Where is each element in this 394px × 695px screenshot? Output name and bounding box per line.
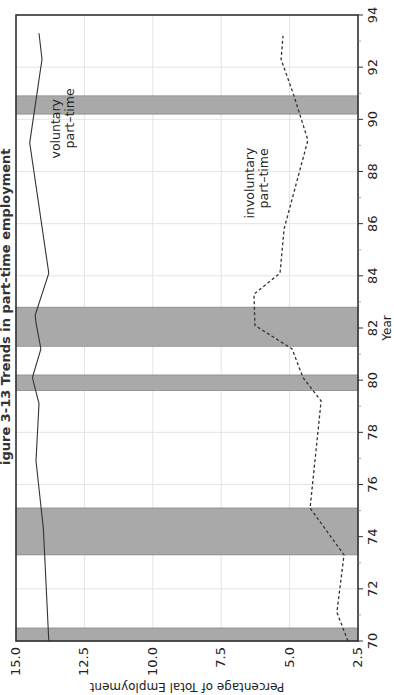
y-tick-label: 5.0 xyxy=(282,647,297,668)
y-axis-ticks: 2.55.07.510.012.515.0 xyxy=(8,647,365,676)
y-tick-label: 12.5 xyxy=(76,647,91,676)
x-axis-ticks: 70727476788082848688909294 xyxy=(358,7,380,650)
y-tick-label: 15.0 xyxy=(8,647,23,676)
y-tick-label: 2.5 xyxy=(350,647,365,668)
x-tick-label: 82 xyxy=(365,320,380,337)
y-axis-title: Percentage of Total Employment xyxy=(89,680,284,694)
recession-shading xyxy=(16,96,358,641)
x-tick-label: 78 xyxy=(365,424,380,441)
recession-band xyxy=(16,508,358,555)
y-tick-label: 7.5 xyxy=(213,647,228,668)
recession-band xyxy=(16,307,358,346)
x-tick-label: 86 xyxy=(365,215,380,232)
x-tick-label: 90 xyxy=(365,111,380,128)
x-tick-label: 72 xyxy=(365,581,380,598)
x-tick-label: 76 xyxy=(365,476,380,493)
y-tick-label: 10.0 xyxy=(145,647,160,676)
figure-title: igure 3-13 Trends in part-time employmen… xyxy=(0,148,13,465)
x-tick-label: 70 xyxy=(365,633,380,650)
rotated-figure: igure 3-13 Trends in part-time employmen… xyxy=(0,0,394,695)
x-axis-title: Year xyxy=(380,315,394,341)
x-tick-label: 88 xyxy=(365,163,380,180)
recession-band xyxy=(16,628,358,641)
involuntary-label: involuntarypart–time xyxy=(242,147,271,218)
x-tick-label: 84 xyxy=(365,268,380,285)
part-time-employment-chart: igure 3-13 Trends in part-time employmen… xyxy=(0,0,394,695)
x-tick-label: 80 xyxy=(365,372,380,389)
voluntary-label: voluntarypart–time xyxy=(48,88,77,158)
x-tick-label: 92 xyxy=(365,59,380,76)
x-tick-label: 74 xyxy=(365,528,380,545)
x-tick-label: 94 xyxy=(365,7,380,24)
